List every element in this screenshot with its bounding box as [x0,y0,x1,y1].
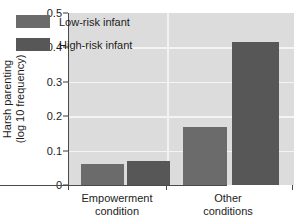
y-axis-title-line2: (log 10 frequency) [14,55,27,144]
x-axis-label-other: Other conditions [176,192,280,218]
bar-empowerment-high-risk [127,161,170,185]
legend-label-low-risk: Low-risk infant [59,16,130,28]
bar-other-low-risk [183,127,227,185]
x-tick-mark-middle [166,185,167,190]
legend-item-high-risk: High-risk infant [16,33,132,56]
y-tick-label-1: 0.1 [32,145,62,157]
x-axis-label-empowerment: Empowerment condition [68,192,166,218]
bar-empowerment-low-risk [81,164,124,185]
legend: Low-risk infant High-risk infant [16,10,132,56]
x-axis-label-other-line1: Other [176,192,280,205]
x-axis-label-empowerment-line1: Empowerment [68,192,166,205]
x-axis-label-empowerment-line2: condition [68,205,166,218]
y-tick-label-3: 0.3 [32,76,62,88]
bar-other-high-risk [232,42,279,185]
x-tick-mark-right [292,185,293,190]
bar-chart-figure: Harsh parenting (log 10 frequency) 0 0.1… [0,0,303,224]
legend-label-high-risk: High-risk infant [59,39,132,51]
legend-swatch-high-risk [16,38,50,51]
legend-item-low-risk: Low-risk infant [16,10,132,33]
x-tick-mark-left [68,185,69,190]
y-axis-title-line1: Harsh parenting [1,55,14,144]
x-axis-label-other-line2: conditions [176,205,280,218]
group-divider [167,13,169,185]
x-axis-line [0,185,227,186]
y-tick-label-2: 0.2 [32,110,62,122]
legend-swatch-low-risk [16,15,50,28]
